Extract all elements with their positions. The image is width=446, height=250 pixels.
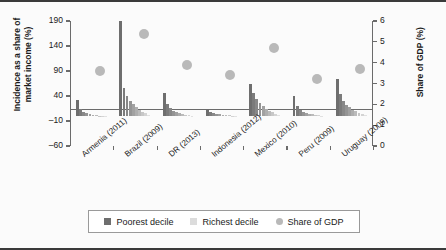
legend-label-gdp: Share of GDP — [288, 217, 344, 227]
bar — [364, 115, 367, 116]
plot-area: 1901409040–10–60 6543210 Armenia (2011)B… — [70, 21, 373, 146]
gdp-share-dot — [312, 74, 322, 84]
x-tick — [330, 146, 331, 150]
x-tick-label: Mexico (2010) — [253, 119, 299, 159]
chart-legend: Poorest decile Richest decile Share of G… — [88, 210, 360, 233]
bar — [234, 116, 237, 117]
left-tick-label: 40 — [29, 91, 63, 100]
right-tick-label: 2 — [380, 99, 400, 108]
y-axis-title-right: Share of GDP (%) — [415, 2, 426, 122]
bar — [191, 116, 194, 117]
left-tick-label: 190 — [29, 16, 63, 25]
left-tick — [66, 95, 70, 96]
x-tick-label: Armenia (2011) — [80, 116, 129, 159]
gdp-share-dot — [269, 43, 279, 53]
legend-label-richest: Richest decile — [202, 217, 258, 227]
legend-swatch-richest-icon — [190, 218, 197, 225]
bar — [147, 115, 150, 117]
right-tick — [373, 41, 377, 42]
right-tick-label: 6 — [380, 16, 400, 25]
x-tick-label: Brazil (2009) — [123, 122, 164, 159]
right-tick — [373, 62, 377, 63]
legend-item-gdp: Share of GDP — [276, 217, 344, 227]
x-tick — [157, 146, 158, 150]
left-tick-label: –60 — [29, 141, 63, 150]
x-tick — [113, 146, 114, 150]
x-tick-label: Uruguay (2009) — [340, 115, 389, 158]
x-tick-label: Peru (2009) — [297, 124, 336, 159]
gdp-share-dot — [225, 70, 235, 80]
left-tick — [66, 45, 70, 46]
right-tick — [373, 20, 377, 21]
right-tick-label: 4 — [380, 58, 400, 67]
left-tick — [66, 145, 70, 146]
x-tick — [286, 146, 287, 150]
x-tick — [243, 146, 244, 150]
left-axis-line — [70, 21, 71, 146]
left-tick-label: 140 — [29, 41, 63, 50]
legend-swatch-poorest-icon — [104, 218, 111, 225]
legend-item-richest: Richest decile — [190, 217, 258, 227]
gdp-share-dot — [139, 29, 149, 39]
legend-marker-gdp-icon — [276, 218, 283, 225]
x-tick-label: DR (2013) — [167, 128, 202, 159]
gdp-share-dot — [355, 64, 365, 74]
left-tick — [66, 20, 70, 21]
bar — [104, 116, 107, 117]
legend-item-poorest: Poorest decile — [104, 217, 173, 227]
figure-panel: Incidence as a share of market income (%… — [0, 0, 446, 250]
right-tick — [373, 83, 377, 84]
gdp-share-dot — [95, 66, 105, 76]
right-tick — [373, 104, 377, 105]
legend-label-poorest: Poorest decile — [116, 217, 173, 227]
zero-baseline — [70, 109, 373, 110]
x-tick — [200, 146, 201, 150]
right-tick-label: 5 — [380, 37, 400, 46]
left-tick — [66, 120, 70, 121]
bar — [320, 116, 323, 117]
x-tick — [373, 146, 374, 150]
gdp-share-dot — [182, 60, 192, 70]
left-tick — [66, 70, 70, 71]
left-tick-label: 90 — [29, 66, 63, 75]
right-tick-label: 0 — [380, 141, 400, 150]
bar — [277, 115, 280, 116]
left-tick-label: –10 — [29, 116, 63, 125]
right-tick-label: 3 — [380, 79, 400, 88]
